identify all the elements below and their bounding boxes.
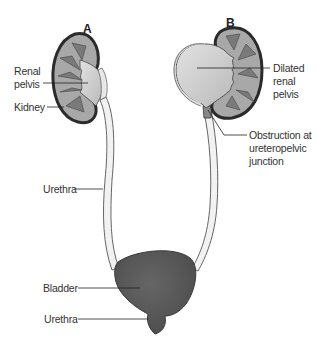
ureter-right <box>192 106 218 271</box>
label-obstruction: Obstruction at ureteropelvic junction <box>249 129 312 168</box>
label-renal-pelvis: Renal pelvis <box>14 65 40 91</box>
panel-a-letter: A <box>83 22 92 36</box>
kidney-a <box>53 33 107 122</box>
panel-b-letter: B <box>226 16 235 30</box>
ureter-left <box>100 97 119 270</box>
kidney-b <box>174 28 262 118</box>
label-urethra-upper: Urethra <box>43 183 77 196</box>
bladder <box>115 251 196 334</box>
label-dilated-renal-pelvis: Dilated renal pelvis <box>273 62 304 101</box>
label-bladder: Bladder <box>43 282 78 295</box>
label-kidney: Kidney <box>14 101 45 114</box>
urinary-tract-diagram: A B Renal pelvis Kidney Dilated renal pe… <box>0 0 316 342</box>
label-urethra-lower: Urethra <box>44 313 78 326</box>
